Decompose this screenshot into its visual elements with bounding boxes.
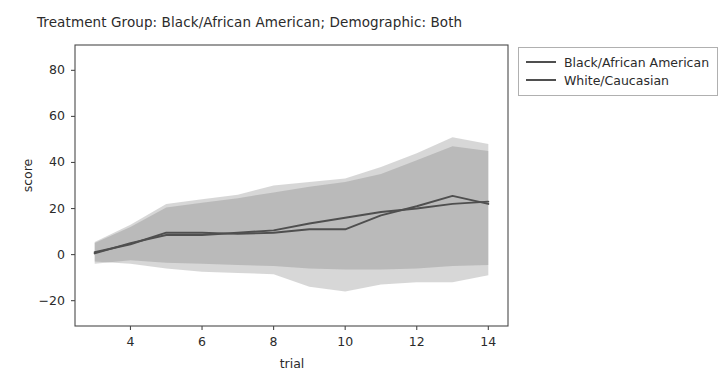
y-tick-label: 40 <box>31 154 65 169</box>
legend-swatch-icon <box>526 61 556 63</box>
y-tick-label: 0 <box>31 247 65 262</box>
y-tick-label: 60 <box>31 108 65 123</box>
x-tick-label: 14 <box>468 334 508 349</box>
x-tick-label: 6 <box>182 334 222 349</box>
chart-legend: Black/African American White/Caucasian <box>518 47 718 96</box>
x-tick-label: 8 <box>254 334 294 349</box>
legend-item: White/Caucasian <box>526 71 710 89</box>
legend-item-label: White/Caucasian <box>564 73 669 88</box>
legend-item: Black/African American <box>526 53 710 71</box>
y-tick-label: 20 <box>31 201 65 216</box>
x-tick-label: 12 <box>397 334 437 349</box>
x-tick-label: 10 <box>325 334 365 349</box>
chart-figure: Treatment Group: Black/African American;… <box>0 0 725 383</box>
x-tick-label: 4 <box>110 334 150 349</box>
legend-swatch-icon <box>526 79 556 81</box>
y-tick-label: 80 <box>31 62 65 77</box>
legend-item-label: Black/African American <box>564 55 709 70</box>
y-tick-label: −20 <box>31 293 65 308</box>
